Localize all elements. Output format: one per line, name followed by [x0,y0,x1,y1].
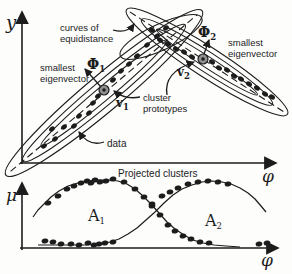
top-y-axis-label: y [5,12,17,33]
cluster-1 [0,0,214,189]
bottom-plot-title: Projected clusters [118,168,197,179]
cluster-prototypes-label-line2: prototypes [143,103,188,114]
curves-of-equidistance-label-line2: equidistance [60,33,113,44]
curves-of-equidistance-label-line1: curves of [60,22,99,33]
smallest-eigenvector-right-line2: eigenvector [228,48,277,59]
smallest-eigenvector-left-line1: smallest [40,62,75,73]
scientific-figure: y curves of equidistance Φ1 smallest eig… [0,0,292,274]
figure-canvas: y curves of equidistance Φ1 smallest eig… [0,0,292,274]
membership-curves [33,176,271,248]
curves-of-equidistance-arrow [113,24,134,31]
smallest-eigenvector-right-line1: smallest [228,37,263,48]
phi1-label: Φ1 [87,56,105,74]
bottom-y-axis-label: μ [6,185,17,205]
a2-label: A2 [204,211,222,231]
a1-label: A1 [87,206,105,226]
bottom-x-axis-label: φ [261,250,273,270]
top-x-axis-label: φ [262,166,274,186]
smallest-eigenvector-left-line2: eigenvector [40,73,89,84]
cluster-prototypes-label-line1: cluster [143,92,171,103]
phi2-label: Φ2 [198,24,216,42]
v1-label: v1 [115,96,129,112]
data-label: data [107,138,127,149]
smallest-eigenvector-arrow-2 [204,40,209,54]
